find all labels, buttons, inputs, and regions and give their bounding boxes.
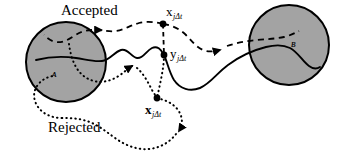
point-y-middle-label: yjΔt xyxy=(170,47,186,60)
point-x-bottom-dot xyxy=(154,95,161,102)
point-x-top-label: xjΔt xyxy=(166,5,182,18)
rejected-label: Rejected xyxy=(48,120,100,135)
region-a-label: ᴀ xyxy=(52,68,56,79)
accepted-label: Accepted xyxy=(61,3,118,18)
region-b-label: ʙ xyxy=(291,38,296,49)
point-x-bottom-base: x xyxy=(145,102,152,117)
point-x-bottom-label: xjΔt xyxy=(145,103,161,116)
point-x-top-subscript: jΔt xyxy=(173,12,182,21)
accepted-left-path xyxy=(96,22,163,31)
connector-x-to-y-path xyxy=(163,24,164,55)
point-y-middle-dot xyxy=(161,52,168,59)
point-x-bottom-subscript: jΔt xyxy=(152,110,161,119)
point-x-top-dot xyxy=(160,21,167,28)
region-a-circle xyxy=(26,22,106,102)
point-x-top-base: x xyxy=(166,4,173,19)
trajectory-diagram: y (dashed vertical) ============ --> x-b… xyxy=(0,0,345,156)
point-y-middle-base: y xyxy=(170,46,177,61)
rejected-descend-path xyxy=(137,68,157,98)
connector-y-to-x-path xyxy=(157,55,164,98)
point-y-middle-subscript: jΔt xyxy=(177,54,186,63)
region-b-circle xyxy=(249,5,329,85)
